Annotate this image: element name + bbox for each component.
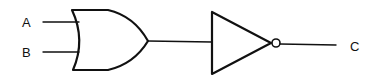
inversion-bubble	[272, 39, 280, 47]
input-b-label: B	[22, 45, 31, 60]
or-to-not-wire	[148, 41, 212, 42]
output-c-label: C	[350, 39, 359, 54]
or-gate	[72, 10, 148, 70]
not-gate	[212, 12, 271, 74]
output-wire	[280, 44, 336, 45]
logic-diagram: A B C	[0, 0, 377, 81]
input-a-label: A	[22, 15, 31, 30]
